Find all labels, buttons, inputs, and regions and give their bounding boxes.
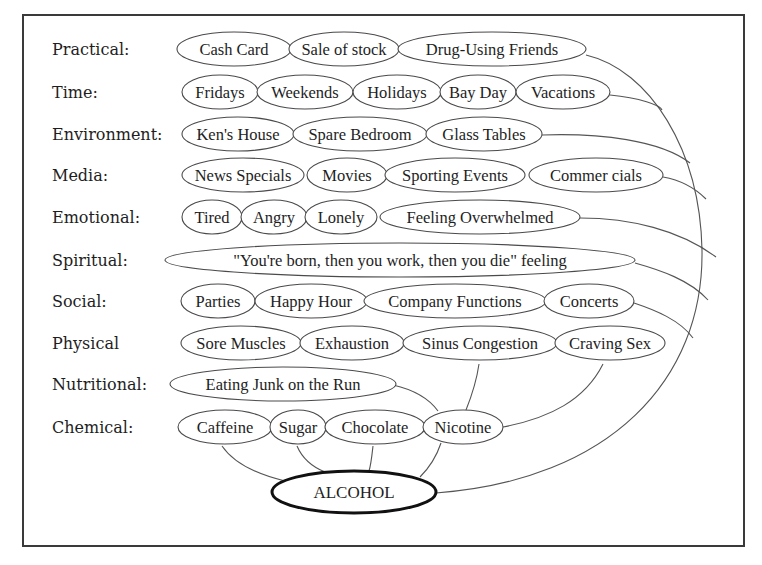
row-emotional: Emotional:TiredAngryLonelyFeeling Overwh… [52,200,580,234]
node-label: Feeling Overwhelmed [406,208,554,227]
node-label: Sale of stock [301,40,387,59]
node-label: News Specials [195,166,292,185]
node-news-specials: News Specials [182,158,304,192]
node-feeling-overwhelmed: Feeling Overwhelmed [380,200,580,234]
node-parties: Parties [181,284,255,318]
row-chemical: Chemical:CaffeineSugarChocolateNicotine [52,410,503,444]
alcohol-trigger-diagram: Practical:Cash CardSale of stockDrug-Usi… [0,0,762,565]
node-sale-of-stock: Sale of stock [289,32,399,66]
connector-eating-junk-on-the-run-to-nicotine [393,385,438,411]
connector-spiritual-to-outer-arc [635,263,708,300]
node-label: Angry [253,208,296,227]
alcohol-hub: ALCOHOL [272,471,436,513]
node-commer-cials: Commer cials [529,158,663,192]
node-you-re-born-then-you-work-then-you-die-feeling: "You're born, then you work, then you di… [165,243,635,277]
category-label: Time: [52,83,98,102]
row-spiritual: Spiritual:"You're born, then you work, t… [52,243,635,277]
row-social: Social:PartiesHappy HourCompany Function… [52,284,634,318]
row-nutritional: Nutritional:Eating Junk on the Run [52,367,396,401]
node-label: Cash Card [199,40,269,59]
node-label: Sore Muscles [196,334,285,353]
connector-caffeine-to-alcohol [222,446,285,481]
node-label: Craving Sex [569,334,652,353]
node-company-functions: Company Functions [364,284,546,318]
connector-sugar-to-alcohol [297,446,325,472]
node-label: Eating Junk on the Run [206,375,361,394]
category-label: Spiritual: [52,251,128,270]
row-practical: Practical:Cash CardSale of stockDrug-Usi… [52,32,586,66]
node-sinus-congestion: Sinus Congestion [403,326,557,360]
node-caffeine: Caffeine [178,410,272,444]
node-chocolate: Chocolate [325,410,425,444]
node-label: Tired [194,208,230,227]
node-label: Concerts [560,292,619,311]
node-weekends: Weekends [257,75,353,109]
node-concerts: Concerts [544,284,634,318]
category-label: Emotional: [52,208,140,227]
node-label: Weekends [271,83,338,102]
node-label: Happy Hour [270,292,353,311]
category-rows: Practical:Cash CardSale of stockDrug-Usi… [52,32,665,444]
connector-nicotine-to-alcohol [420,443,441,477]
node-label: Parties [196,292,241,311]
node-holidays: Holidays [353,75,441,109]
node-ken-s-house: Ken's House [182,117,294,151]
node-sporting-events: Sporting Events [385,158,525,192]
row-media: Media:News SpecialsMoviesSporting Events… [52,158,663,192]
node-label: Drug-Using Friends [426,40,558,59]
category-label: Environment: [52,125,163,144]
node-lonely: Lonely [305,200,377,234]
node-label: Bay Day [449,83,508,102]
node-label: Nicotine [435,418,492,437]
connector-craving-sex-to-nicotine [503,364,603,427]
node-label: Sugar [279,418,318,437]
node-spare-bedroom: Spare Bedroom [293,117,427,151]
node-label: Ken's House [196,125,279,144]
row-physical: PhysicalSore MusclesExhaustionSinus Cong… [52,326,665,360]
hub-label: ALCOHOL [313,483,394,502]
node-label: Company Functions [388,292,521,311]
category-label: Chemical: [52,418,133,437]
node-label: Exhaustion [315,334,389,353]
node-fridays: Fridays [182,75,258,109]
row-environment: Environment:Ken's HouseSpare BedroomGlas… [52,117,542,151]
node-craving-sex: Craving Sex [555,326,665,360]
node-label: Vacations [531,83,595,102]
category-label: Practical: [52,40,129,59]
connector-chocolate-to-alcohol [369,446,373,471]
connector-sinus-congestion-to-nicotine [466,364,479,410]
node-label: "You're born, then you work, then you di… [233,251,567,270]
node-sore-muscles: Sore Muscles [181,326,301,360]
node-angry: Angry [241,200,307,234]
node-happy-hour: Happy Hour [255,284,367,318]
node-cash-card: Cash Card [177,32,291,66]
node-label: Caffeine [197,418,254,437]
node-sugar: Sugar [270,410,326,444]
node-tired: Tired [182,200,242,234]
category-label: Physical [52,334,119,353]
node-exhaustion: Exhaustion [300,326,404,360]
node-vacations: Vacations [516,75,610,109]
node-movies: Movies [307,158,387,192]
node-label: Spare Bedroom [308,125,411,144]
node-glass-tables: Glass Tables [426,117,542,151]
node-label: Fridays [195,83,245,102]
node-label: Lonely [318,208,365,227]
node-label: Movies [322,166,372,185]
node-label: Holidays [367,83,427,102]
node-label: Sporting Events [402,166,508,185]
category-label: Social: [52,292,107,311]
node-drug-using-friends: Drug-Using Friends [398,32,586,66]
node-eating-junk-on-the-run: Eating Junk on the Run [170,367,396,401]
row-time: Time:FridaysWeekendsHolidaysBay DayVacat… [52,75,610,109]
node-label: Chocolate [342,418,409,437]
node-label: Commer cials [550,166,642,185]
category-label: Media: [52,166,108,185]
node-nicotine: Nicotine [423,410,503,444]
connector-commer-cials-to-outer-arc [663,177,706,199]
node-bay-day: Bay Day [440,75,516,109]
node-label: Glass Tables [442,125,525,144]
node-label: Sinus Congestion [422,334,538,353]
category-label: Nutritional: [52,375,147,394]
